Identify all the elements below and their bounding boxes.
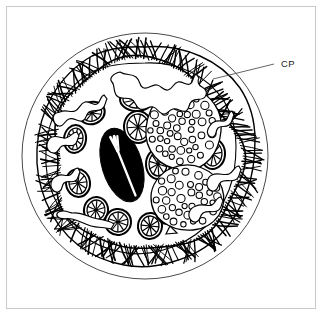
figure-root: CP [0,0,323,316]
vacuole-granule [153,120,159,126]
vacuole-granule [176,209,182,215]
vacuole-granule [148,128,153,133]
vacuole-granule [205,141,213,149]
vacuole-granule [164,122,171,129]
vacuole-granule [192,110,200,118]
vacuole-granule [181,222,186,227]
vacuole-granule [201,101,209,109]
vacuole-granule [177,194,185,202]
vacuole-granule [157,127,164,134]
vacuole-granule [188,127,194,133]
vacuole-granule [167,175,175,183]
vacuole-granule [159,178,165,184]
vacuole-granule [174,133,181,140]
vacuole-granule [179,118,185,124]
vacuole-granule [169,154,174,159]
cp-leader-line [213,64,274,79]
vacuole-granule [196,184,203,191]
vacuole-granule [173,168,179,174]
vacuole-granule [197,152,203,158]
vacuole-granule [169,115,176,122]
vacuole-granule [170,218,177,225]
vacuole-granule [189,119,195,125]
vacuole-granule [188,181,194,187]
vacuole-granule [182,168,189,175]
vacuole-granule [198,132,205,139]
vacuole-granule [158,136,164,142]
cell-cross-section-diagram: CP [0,0,323,316]
vacuole-granule [169,205,175,211]
vacuole-granule [156,145,163,152]
vacuole-granule [168,189,175,196]
vacuole-granule [193,144,198,149]
vacuole-granule [201,198,207,204]
vacuole-granule [188,189,195,196]
vacuole-granule [189,136,196,143]
vacuole-granule [206,110,212,116]
vacuole-granule [182,204,187,209]
vacuole-granule [184,111,190,117]
vacuole-granule [149,136,155,142]
vacuole-granule [187,148,192,153]
vacuole-granule [163,151,169,157]
vacuole-granule [153,197,159,203]
vacuole-granule [163,197,170,204]
vacuole-granule [158,206,166,214]
vacuole-granule [177,158,184,165]
vacuole-granule [177,111,183,117]
vacuole-granule [167,131,173,137]
vacuole-granule [175,181,183,189]
vacuole-granule [150,111,158,119]
vacuole-granule [196,192,202,198]
vacuole-granule [169,146,176,153]
vacuole-granule [195,172,203,180]
label-cp: CP [281,58,295,69]
vacuole-granule [198,118,206,126]
vacuole-granule [174,125,181,132]
vacuole-granule [158,187,166,195]
vacuole-granule [188,156,195,163]
vacuole-granule [177,147,185,155]
vacuole-granule [164,214,170,220]
vacuole-granule [164,138,169,143]
vacuole-granule [181,138,188,145]
